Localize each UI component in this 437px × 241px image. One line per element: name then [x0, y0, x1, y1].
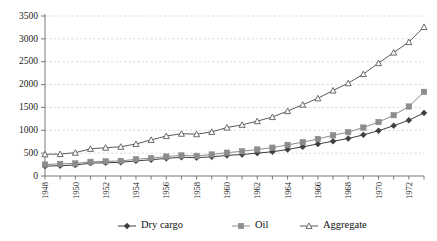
series-line: [45, 113, 424, 166]
data-point-marker: [406, 117, 412, 123]
x-tick-label: 1970: [374, 182, 384, 199]
data-point-marker: [118, 158, 123, 163]
data-point-marker: [255, 147, 260, 152]
data-point-marker: [42, 162, 47, 167]
series-line: [45, 27, 424, 154]
data-point-marker: [270, 145, 275, 150]
data-point-marker: [315, 95, 321, 101]
x-tick-label: 1968: [343, 182, 353, 199]
series-oil: [42, 89, 426, 167]
y-tick-label: 0: [33, 171, 38, 181]
data-point-marker: [391, 123, 397, 129]
data-point-marker: [391, 50, 397, 56]
data-point-marker: [360, 71, 366, 77]
chart-canvas: 0500100015002000250030003500 19481950195…: [0, 0, 437, 241]
x-tick-label: 1972: [404, 182, 414, 199]
data-point-marker: [179, 153, 184, 158]
y-tick-label: 2000: [19, 79, 38, 89]
data-point-marker: [224, 150, 229, 155]
data-point-marker: [148, 155, 153, 160]
data-point-marker: [376, 119, 381, 124]
data-point-marker: [361, 125, 366, 130]
data-point-marker: [164, 154, 169, 159]
legend-item-dry-cargo[interactable]: Dry cargo: [118, 219, 183, 230]
data-point-marker: [421, 24, 427, 30]
y-axis-tick-labels: 0500100015002000250030003500: [19, 11, 38, 181]
chart-legend: Dry cargoOilAggregate: [118, 219, 367, 230]
data-point-marker: [345, 80, 351, 86]
y-tick-label: 1000: [19, 125, 38, 135]
legend-label: Dry cargo: [141, 219, 183, 230]
data-point-marker: [315, 136, 320, 141]
data-point-marker: [194, 153, 199, 158]
data-point-marker: [300, 139, 305, 144]
data-point-marker: [330, 133, 335, 138]
y-tick-label: 3500: [19, 11, 38, 21]
data-series-group: [42, 24, 427, 169]
x-tick-label: 1960: [222, 182, 232, 199]
x-axis-tick-labels: 1948195019521954195619581960196219641966…: [40, 181, 414, 199]
data-point-marker: [103, 159, 108, 164]
data-point-marker: [88, 159, 93, 164]
x-tick-label: 1954: [131, 181, 141, 199]
y-tick-label: 500: [24, 148, 39, 158]
series-dry-cargo: [42, 110, 427, 169]
data-point-marker: [391, 113, 396, 118]
data-point-marker: [345, 136, 351, 142]
data-point-marker: [330, 88, 336, 94]
data-point-marker: [360, 132, 366, 138]
x-tick-label: 1950: [71, 182, 81, 199]
data-point-marker: [124, 223, 130, 229]
gridlines: [45, 16, 424, 153]
legend-item-aggregate[interactable]: Aggregate: [300, 219, 367, 230]
data-point-marker: [133, 157, 138, 162]
data-point-marker: [239, 149, 244, 154]
y-tick-label: 1500: [19, 102, 38, 112]
data-point-marker: [376, 60, 382, 66]
y-tick-label: 3000: [19, 34, 38, 44]
x-tick-label: 1962: [252, 182, 262, 199]
data-point-marker: [209, 152, 214, 157]
x-tick-label: 1958: [192, 182, 202, 199]
data-point-marker: [421, 110, 427, 116]
data-point-marker: [346, 129, 351, 134]
data-point-marker: [238, 223, 243, 228]
series-line: [45, 92, 424, 165]
x-tick-label: 1964: [283, 181, 293, 199]
x-tick-label: 1956: [161, 182, 171, 199]
data-point-marker: [285, 142, 290, 147]
data-point-marker: [376, 128, 382, 134]
series-aggregate: [42, 24, 427, 157]
data-point-marker: [269, 114, 275, 120]
data-point-marker: [73, 161, 78, 166]
data-point-marker: [330, 138, 336, 144]
data-point-marker: [421, 89, 426, 94]
x-tick-label: 1952: [101, 182, 111, 199]
legend-item-oil[interactable]: Oil: [232, 219, 269, 230]
data-point-marker: [285, 108, 291, 114]
data-point-marker: [57, 161, 62, 166]
y-tick-label: 2500: [19, 56, 38, 66]
data-point-marker: [406, 104, 411, 109]
line-chart: 0500100015002000250030003500 19481950195…: [0, 0, 437, 241]
x-tick-label: 1966: [313, 182, 323, 199]
legend-label: Oil: [255, 219, 269, 230]
data-point-marker: [300, 102, 306, 108]
x-tick-label: 1948: [40, 182, 50, 199]
legend-label: Aggregate: [323, 219, 367, 230]
